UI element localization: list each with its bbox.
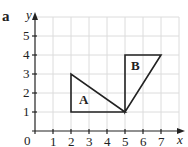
x-tick-1: 1	[50, 135, 57, 147]
x-tick-4: 4	[104, 135, 111, 147]
shape-a-label: A	[79, 93, 88, 106]
y-axis-arrow-icon	[32, 12, 38, 20]
y-axis-label: y	[26, 8, 32, 21]
origin-label: 0	[24, 134, 31, 147]
y-tick-5: 5	[23, 29, 30, 42]
shape-b-label: B	[131, 59, 140, 72]
y-tick-1: 1	[23, 105, 30, 118]
x-tick-6: 6	[140, 135, 147, 147]
x-axis-label: x	[177, 133, 183, 146]
y-tick-4: 4	[23, 48, 30, 61]
grid-lines	[35, 17, 179, 131]
y-tick-3: 3	[23, 67, 30, 80]
part-label: a	[2, 9, 10, 24]
x-tick-3: 3	[86, 135, 93, 147]
y-tick-2: 2	[23, 86, 30, 99]
x-tick-2: 2	[68, 135, 75, 147]
x-tick-7: 7	[158, 135, 165, 147]
x-tick-5: 5	[122, 135, 129, 147]
